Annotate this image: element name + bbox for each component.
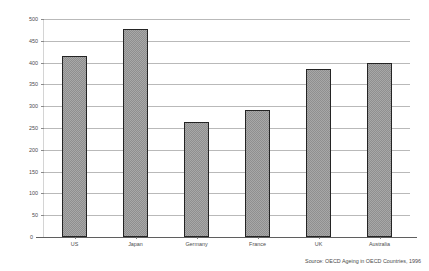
y-tick-label-500: 500 <box>8 16 38 22</box>
bar-france <box>245 110 271 237</box>
y-tick-label-200: 200 <box>8 147 38 153</box>
x-tickmark-germany <box>197 237 198 239</box>
y-tickmark-200 <box>41 150 44 151</box>
y-tickmark-500 <box>41 19 44 20</box>
y-axis-labels: 50100150200250300350400450500 <box>8 19 38 237</box>
x-tick-label-germany: Germany <box>166 241 227 248</box>
y-tick-label-350: 350 <box>8 81 38 87</box>
source-note: Source: OECD Ageing in OECD Countries, 1… <box>0 258 421 265</box>
x-tick-label-us: US <box>44 241 105 248</box>
plot-area <box>44 19 410 237</box>
y-tickmark-150 <box>41 172 44 173</box>
x-tick-label-uk: UK <box>288 241 349 248</box>
y-tick-label-250: 250 <box>8 125 38 131</box>
x-tickmark-japan <box>136 237 137 239</box>
x-tickmark-uk <box>319 237 320 239</box>
y-tick-label-150: 150 <box>8 169 38 175</box>
x-tick-label-australia: Australia <box>349 241 410 248</box>
x-axis-line <box>36 237 417 238</box>
x-axis-labels: USJapanGermanyFranceUKAustralia <box>44 241 410 253</box>
y-tick-label-50: 50 <box>8 212 38 218</box>
bar-australia <box>367 63 393 237</box>
bar-germany <box>184 122 210 237</box>
bars-layer <box>44 19 410 237</box>
x-tickmark-australia <box>380 237 381 239</box>
y-tickmark-50 <box>41 215 44 216</box>
y-tickmark-250 <box>41 128 44 129</box>
bar-chart: 50100150200250300350400450500 0 USJapanG… <box>0 0 429 271</box>
x-tick-label-japan: Japan <box>105 241 166 248</box>
y-tick-label-300: 300 <box>8 103 38 109</box>
bar-japan <box>123 29 149 237</box>
y-tick-label-450: 450 <box>8 38 38 44</box>
y-tickmark-300 <box>41 106 44 107</box>
y-tick-label-100: 100 <box>8 190 38 196</box>
bar-us <box>62 56 88 237</box>
x-tickmark-us <box>75 237 76 239</box>
y-tickmark-350 <box>41 84 44 85</box>
y-tickmark-450 <box>41 41 44 42</box>
y-tickmark-400 <box>41 63 44 64</box>
bar-uk <box>306 69 332 237</box>
x-tick-label-france: France <box>227 241 288 248</box>
x-tickmark-france <box>258 237 259 239</box>
y-tickmark-100 <box>41 193 44 194</box>
y-tick-label-400: 400 <box>8 60 38 66</box>
y-axis-zero-label: 0 <box>30 234 33 240</box>
